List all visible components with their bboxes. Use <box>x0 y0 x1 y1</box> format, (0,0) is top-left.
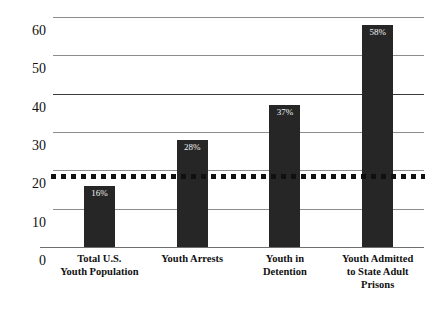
bar-chart: PROPORTION (%) 0102030405060 16%28%37%58… <box>0 0 444 311</box>
category-label-line: to State Adult <box>323 265 433 278</box>
y-axis-tick-label: 30 <box>32 139 46 153</box>
y-axis-tick-label: 10 <box>32 216 46 230</box>
bar: 28% <box>177 140 208 247</box>
x-axis-category-label: Youth Admittedto State AdultPrisons <box>323 252 433 291</box>
x-axis-baseline <box>40 247 424 248</box>
plot-area: 0102030405060 16%28%37%58% <box>53 17 424 247</box>
category-label-line: Youth Population <box>44 265 154 278</box>
bar: 58% <box>362 25 393 247</box>
bar-value-label: 58% <box>362 28 393 38</box>
y-axis-tick-label: 40 <box>32 101 46 115</box>
y-axis-tick-label: 60 <box>32 24 46 38</box>
bar: 16% <box>84 186 115 247</box>
category-label-line: Prisons <box>323 278 433 291</box>
y-axis-tick-label: 20 <box>32 177 46 191</box>
reference-line <box>51 174 425 179</box>
y-axis-tick-label: 50 <box>32 62 46 76</box>
gridline <box>53 17 424 18</box>
bar-value-label: 37% <box>269 108 300 118</box>
bar-value-label: 28% <box>177 143 208 153</box>
bar-value-label: 16% <box>84 189 115 199</box>
category-label-line: Youth Admitted <box>323 252 433 265</box>
